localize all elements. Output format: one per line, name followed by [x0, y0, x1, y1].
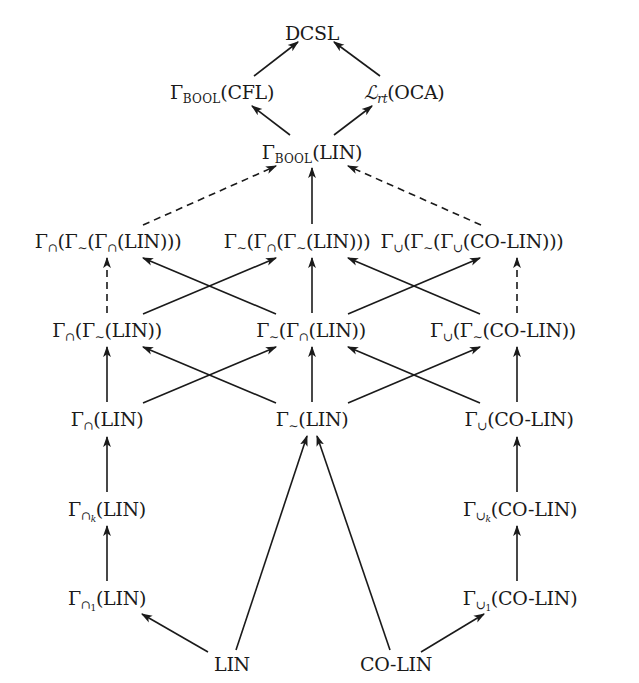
language-hierarchy-diagram: DCSL ΓBOOL(CFL) ℒrt(OCA) ΓBOOL(LIN) Γ∩(Γ…: [0, 0, 639, 683]
gamma-symbol: Γ: [381, 230, 394, 252]
gamma-symbol: Γ: [283, 230, 296, 252]
paren: )): [356, 230, 370, 252]
script-l-symbol: ℒ: [364, 81, 378, 103]
paren: (: [87, 230, 94, 252]
gamma-symbol: Γ: [464, 408, 477, 430]
edge-colin-to-cup_1_colin: [421, 614, 484, 652]
gamma-symbol: Γ: [463, 587, 476, 609]
argument: (CO-LIN): [487, 408, 573, 430]
node-colin: CO-LIN: [360, 655, 432, 674]
node-cup-k-colin: Γ∪k(CO-LIN): [463, 500, 577, 519]
edge-colin-to-neg_lin: [317, 436, 390, 650]
paren: (: [279, 319, 286, 341]
neg-subscript: ∼: [95, 330, 105, 344]
gamma-symbol: Γ: [254, 230, 267, 252]
cap-subscript: ∩: [84, 419, 94, 433]
gamma-symbol: Γ: [463, 498, 476, 520]
gamma-symbol: Γ: [262, 141, 275, 163]
gamma-symbol: Γ: [276, 408, 289, 430]
argument: (CO-LIN): [491, 498, 577, 520]
cup-subscript: ∪: [443, 330, 453, 344]
paren: (: [57, 230, 64, 252]
paren: ): [359, 319, 366, 341]
edge-bool_cfl-to-dcsl: [254, 42, 298, 76]
argument: (LIN): [306, 230, 356, 252]
neg-subscript: ∼: [237, 241, 247, 255]
gamma-symbol: Γ: [430, 319, 443, 341]
argument: (OCA): [387, 81, 444, 103]
bool-subscript: BOOL: [183, 92, 221, 106]
node-cap-k-lin: Γ∩k(LIN): [68, 500, 146, 519]
cup-subscript: ∪: [453, 241, 463, 255]
cap-subscript: ∩: [65, 330, 75, 344]
node-neg-cap-neg-lin: Γ∼(Γ∩(Γ∼(LIN))): [224, 232, 371, 251]
cup-subscript: ∪: [393, 241, 403, 255]
gamma-symbol: Γ: [52, 319, 65, 341]
edge-lrt_oca-to-dcsl: [334, 42, 380, 76]
gamma-symbol: Γ: [170, 81, 183, 103]
argument: (LIN): [93, 408, 143, 430]
edge-lin-to-neg_lin: [236, 436, 307, 650]
cap-subscript: ∩: [48, 241, 58, 255]
node-label: LIN: [214, 653, 250, 675]
node-cap-neg-cap-lin: Γ∩(Γ∼(Γ∩(LIN))): [35, 232, 182, 251]
node-label: DCSL: [285, 22, 339, 44]
argument: (CFL): [220, 81, 274, 103]
node-dcsl: DCSL: [285, 24, 339, 43]
gamma-symbol: Γ: [440, 230, 453, 252]
argument: (CO-LIN): [482, 319, 568, 341]
argument: (LIN): [96, 587, 146, 609]
argument: (LIN): [298, 408, 348, 430]
cap-subscript: ∩: [107, 241, 117, 255]
edge-bool_lin-to-lrt_oca: [334, 106, 372, 135]
gamma-symbol: Γ: [410, 230, 423, 252]
node-cap-neg-lin: Γ∩(Γ∼(LIN)): [52, 321, 162, 340]
gamma-symbol: Γ: [82, 319, 95, 341]
paren: (: [433, 230, 440, 252]
paren: )): [167, 230, 181, 252]
neg-subscript: ∼: [289, 419, 299, 433]
edge-bool_lin-to-bool_cfl: [252, 106, 290, 135]
node-cup-1-colin: Γ∪1(CO-LIN): [463, 589, 578, 608]
paren: (: [453, 319, 460, 341]
argument: (LIN): [96, 498, 146, 520]
paren: )): [549, 230, 563, 252]
gamma-symbol: Γ: [256, 319, 269, 341]
neg-subscript: ∼: [473, 330, 483, 344]
cup-subscript: ∪: [476, 509, 486, 523]
argument: (CO-LIN): [491, 587, 577, 609]
paren: ): [569, 319, 576, 341]
node-cup-colin: Γ∪(CO-LIN): [464, 410, 573, 429]
gamma-symbol: Γ: [68, 498, 81, 520]
cap-subscript: ∩: [299, 330, 309, 344]
argument: (LIN): [312, 141, 362, 163]
gamma-symbol: Γ: [460, 319, 473, 341]
node-gamma-bool-cfl: ΓBOOL(CFL): [170, 83, 274, 102]
gamma-symbol: Γ: [35, 230, 48, 252]
cap-subscript: ∩: [81, 598, 91, 612]
neg-subscript: ∼: [423, 241, 433, 255]
node-neg-lin: Γ∼(LIN): [276, 410, 349, 429]
argument: (LIN): [309, 319, 359, 341]
cap-subscript: ∩: [81, 509, 91, 523]
gamma-symbol: Γ: [94, 230, 107, 252]
argument: (LIN): [117, 230, 167, 252]
paren: (: [276, 230, 283, 252]
neg-subscript: ∼: [296, 241, 306, 255]
gamma-symbol: Γ: [286, 319, 299, 341]
cup-subscript: ∪: [476, 598, 486, 612]
node-lin: LIN: [214, 655, 250, 674]
node-cap-1-lin: Γ∩1(LIN): [68, 589, 146, 608]
neg-subscript: ∼: [269, 330, 279, 344]
neg-subscript: ∼: [77, 241, 87, 255]
paren: ): [155, 319, 162, 341]
paren: (: [75, 319, 82, 341]
cap-subscript: ∩: [266, 241, 276, 255]
node-neg-cap-lin: Γ∼(Γ∩(LIN)): [256, 321, 366, 340]
node-gamma-bool-lin: ΓBOOL(LIN): [262, 143, 362, 162]
node-cap-lin: Γ∩(LIN): [71, 410, 144, 429]
node-cup-neg-colin: Γ∪(Γ∼(CO-LIN)): [430, 321, 576, 340]
bool-subscript: BOOL: [275, 152, 313, 166]
edge-cup_neg_cup_colin-to-bool_lin: [348, 166, 481, 225]
paren: (: [403, 230, 410, 252]
